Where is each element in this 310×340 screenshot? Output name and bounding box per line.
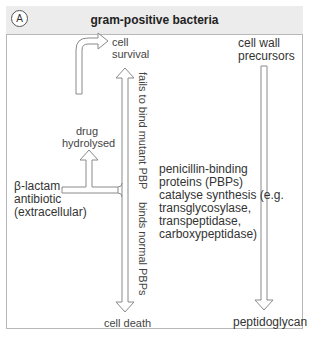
label-pbp-6: carboxypeptidase) xyxy=(159,228,257,241)
label-cell-survival-1: cell xyxy=(112,36,129,48)
label-drug-hydrolysed-1: drug xyxy=(76,125,98,137)
label-fails-to-bind: fails to bind mutant PBP xyxy=(137,72,149,189)
label-cell-death: cell death xyxy=(104,317,151,329)
arrow-antibiotic-to-hydrolysed xyxy=(62,150,118,193)
label-peptidoglycan: peptidoglycan xyxy=(233,316,307,329)
label-cell-wall-2: precursors xyxy=(238,50,295,63)
label-drug-hydrolysed-2: hydrolysed xyxy=(62,137,115,149)
arrow-hydrolysed-to-survival xyxy=(76,33,108,94)
label-cell-survival-2: survival xyxy=(112,48,149,60)
label-beta-lactam-3: (extracellular) xyxy=(14,206,87,219)
arrow-junction xyxy=(118,183,122,197)
label-binds-normal: binds normal PBPs xyxy=(137,202,149,296)
arrow-pbp-binding xyxy=(116,68,134,312)
